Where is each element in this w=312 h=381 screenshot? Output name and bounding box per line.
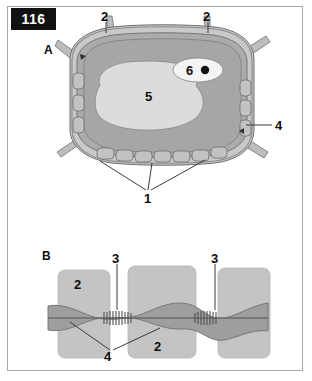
callout-4-plasma-membrane: 4 <box>104 350 111 363</box>
callout-4-middle-lamella: 4 <box>275 119 282 132</box>
callout-2-cell-center: 2 <box>154 340 161 353</box>
callout-2-top-left: 2 <box>101 10 108 23</box>
callout-2-top-right: 2 <box>203 10 210 23</box>
figure-plate: 116 A B 2 2 6 5 4 1 3 3 2 2 4 <box>0 0 312 381</box>
panel-label-b: B <box>42 250 51 262</box>
panel-label-a: A <box>44 44 53 56</box>
plate-number-badge: 116 <box>11 8 56 30</box>
callout-1-plasmodesmata: 1 <box>144 192 151 205</box>
callout-3-plasmodesma-right: 3 <box>211 252 218 265</box>
plate-number-text: 116 <box>21 12 45 26</box>
figure-frame <box>7 6 303 371</box>
callout-5-vacuole: 5 <box>145 90 152 103</box>
callout-6-nucleus: 6 <box>186 64 193 77</box>
callout-3-plasmodesma-left: 3 <box>112 252 119 265</box>
callout-2-cell-left: 2 <box>74 278 81 291</box>
